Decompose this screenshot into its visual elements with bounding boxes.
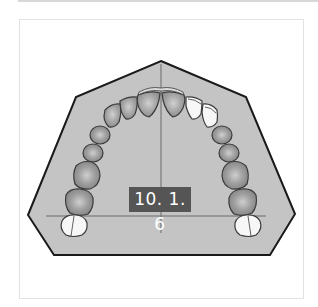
dental-arch-diagram — [0, 0, 318, 307]
tooth-molar-1-right — [222, 162, 248, 190]
tooth-molar-2-left — [66, 189, 94, 215]
tooth-premolar-1-left — [90, 126, 110, 144]
tooth-premolar-2-right — [219, 144, 239, 162]
figure-label: 10. 1. 6 — [129, 187, 191, 212]
tooth-canine-right — [202, 104, 218, 127]
tooth-premolar-1-right — [212, 126, 232, 144]
tooth-premolar-2-left — [83, 144, 103, 162]
tooth-molar-2-right — [229, 189, 257, 215]
tooth-molar-1-left — [74, 162, 100, 190]
tooth-molar-3-left — [61, 215, 87, 237]
tooth-molar-3-right — [235, 215, 261, 237]
